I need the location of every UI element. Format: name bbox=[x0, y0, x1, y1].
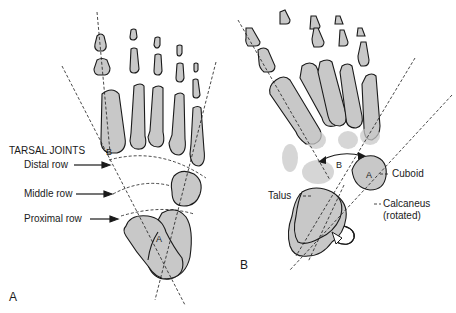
panel-a-label: A bbox=[9, 290, 17, 304]
calcaneus-rotated-note: (rotated) bbox=[383, 210, 421, 221]
axis-marker-b: B bbox=[106, 147, 112, 157]
svg-text:B: B bbox=[336, 160, 342, 170]
calcaneus-label: Calcaneus bbox=[383, 198, 430, 209]
panel-a-foot: B A bbox=[62, 12, 216, 305]
middle-row-label: Middle row bbox=[24, 188, 72, 199]
talus-label: Talus bbox=[268, 190, 291, 201]
middle-row-line bbox=[113, 183, 171, 194]
panel-b-foot: B A bbox=[238, 10, 452, 270]
axis-marker-a: A bbox=[156, 234, 162, 244]
foot-diagram: B A bbox=[0, 0, 456, 313]
proximal-row-label: Proximal row bbox=[24, 213, 82, 224]
tarsal-joints-heading: TARSAL JOINTS bbox=[9, 145, 85, 156]
svg-text:A: A bbox=[366, 170, 372, 180]
cuboid-label: Cuboid bbox=[392, 168, 424, 179]
distal-row-label: Distal row bbox=[24, 159, 68, 170]
panel-b-label: B bbox=[240, 258, 248, 272]
